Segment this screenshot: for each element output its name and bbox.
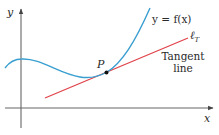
- tangent-line-diagram: y x P y = f(x) ℓT Tangent line: [0, 0, 219, 135]
- tangent-caption-line1: Tangent: [161, 50, 205, 62]
- tangent-symbol: ℓT: [190, 29, 201, 44]
- curve-label: y = f(x): [151, 13, 191, 25]
- tangent-caption-line2: line: [173, 62, 193, 74]
- y-axis-label: y: [6, 6, 14, 19]
- tangent-line: [45, 38, 188, 98]
- function-curve: [5, 8, 150, 78]
- point-p-marker: [105, 71, 109, 75]
- x-axis-label: x: [204, 112, 211, 125]
- point-p-label: P: [96, 58, 105, 71]
- tangent-symbol-subscript: T: [195, 36, 201, 44]
